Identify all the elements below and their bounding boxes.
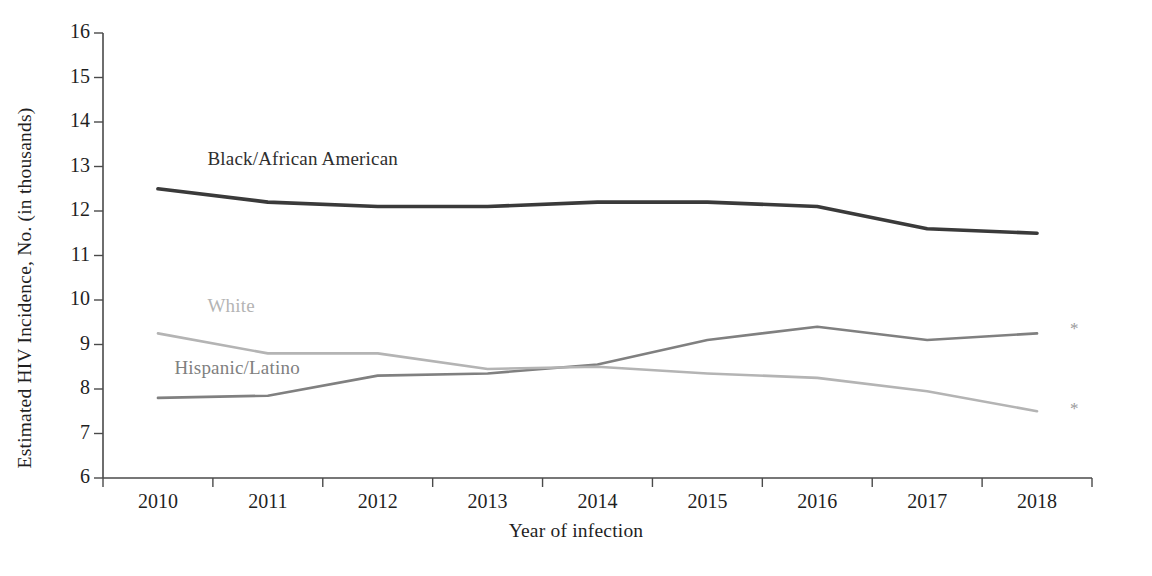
y-tick-label: 9	[56, 332, 90, 355]
y-tick-label: 11	[56, 243, 90, 266]
y-tick-label: 10	[56, 287, 90, 310]
tick-marks	[94, 33, 1092, 487]
asterisk-hispanic-2018: *	[1070, 320, 1079, 337]
hiv-incidence-line-chart: Estimated HIV Incidence, No. (in thousan…	[0, 0, 1152, 576]
y-tick-label: 14	[56, 109, 90, 132]
y-tick-label: 6	[56, 465, 90, 488]
x-tick-label: 2014	[552, 490, 644, 513]
y-tick-label: 15	[56, 65, 90, 88]
y-tick-label: 7	[56, 421, 90, 444]
y-tick-label: 12	[56, 198, 90, 221]
x-tick-label: 2012	[332, 490, 424, 513]
series-label-hispanic-latino: Hispanic/Latino	[174, 357, 299, 379]
x-tick-label: 2011	[222, 490, 314, 513]
series-label-white: White	[207, 295, 254, 317]
axis-lines	[103, 33, 1092, 478]
series-line-black-african-american	[158, 189, 1037, 234]
x-tick-label: 2016	[771, 490, 863, 513]
x-tick-label: 2013	[442, 490, 534, 513]
x-axis-title-container: Year of infection	[0, 520, 1152, 542]
series-label-black-african-american: Black/African American	[207, 148, 398, 170]
x-tick-label: 2018	[991, 490, 1083, 513]
x-tick-label: 2017	[881, 490, 973, 513]
x-tick-label: 2010	[112, 490, 204, 513]
x-tick-label: 2015	[661, 490, 753, 513]
y-tick-label: 8	[56, 376, 90, 399]
y-tick-label: 16	[56, 20, 90, 43]
x-axis-title: Year of infection	[509, 520, 644, 541]
asterisk-white-2018: *	[1070, 400, 1079, 417]
y-tick-label: 13	[56, 154, 90, 177]
